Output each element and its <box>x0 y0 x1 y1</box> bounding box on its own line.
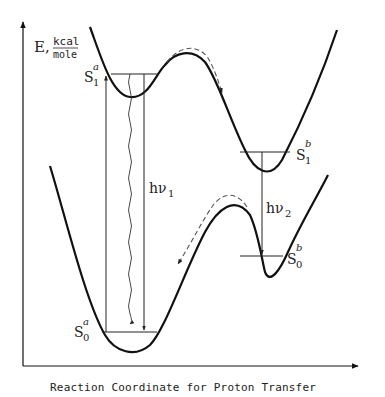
svg-text:hν: hν <box>266 200 284 216</box>
label-s1b: S b 1 <box>296 138 311 166</box>
proton-transfer-energy-diagram: E, kcal mole S a 1 S b 1 S a 0 S b 0 hν … <box>0 0 385 397</box>
svg-text:a: a <box>83 316 89 327</box>
svg-text:hν: hν <box>149 180 167 196</box>
label-s0b: S b 0 <box>287 242 302 270</box>
y-axis-symbol: E, <box>34 38 50 56</box>
nonradiative-wavy-arrow <box>129 74 132 324</box>
svg-text:1: 1 <box>93 77 99 88</box>
svg-text:1: 1 <box>305 155 311 166</box>
label-hv1: hν 1 <box>149 180 174 199</box>
y-axis-unit-numerator: kcal <box>53 35 80 48</box>
svg-text:1: 1 <box>168 188 174 199</box>
svg-text:0: 0 <box>83 332 89 343</box>
x-axis-label: Reaction Coordinate for Proton Transfer <box>50 381 316 394</box>
svg-text:2: 2 <box>285 208 291 219</box>
svg-text:0: 0 <box>296 259 302 270</box>
label-s1a: S a 1 <box>84 61 99 88</box>
svg-text:b: b <box>305 138 311 149</box>
label-hv2: hν 2 <box>266 200 291 219</box>
label-s0a: S a 0 <box>74 316 89 343</box>
y-axis-unit-denominator: mole <box>53 49 77 60</box>
svg-text:b: b <box>296 242 302 253</box>
svg-text:a: a <box>93 61 99 72</box>
